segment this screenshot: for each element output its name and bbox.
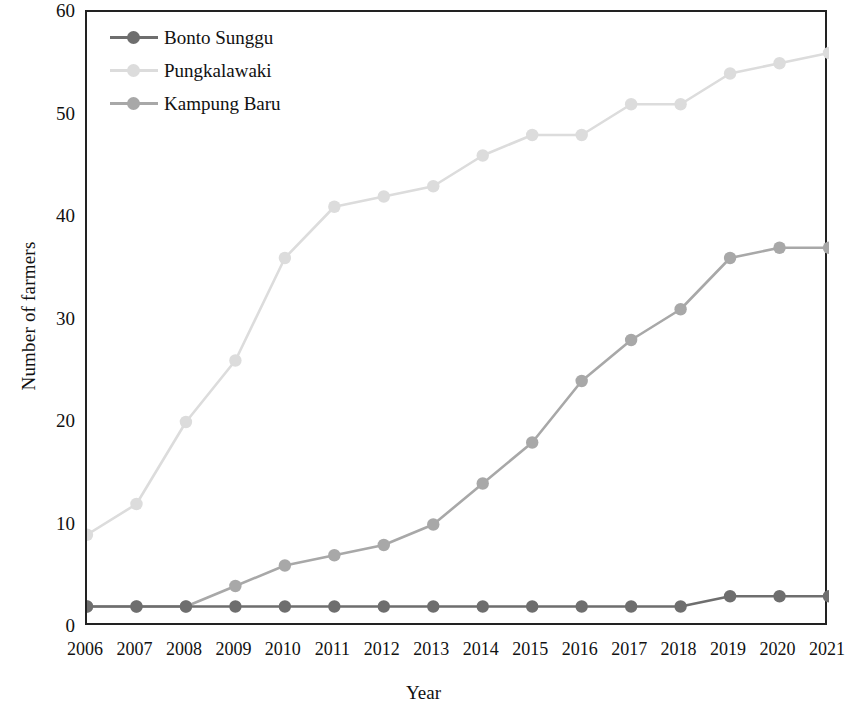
data-point-marker <box>229 354 241 366</box>
legend-marker-dot <box>127 97 140 110</box>
data-point-marker <box>87 600 93 612</box>
data-point-marker <box>279 559 291 571</box>
data-point-marker <box>773 242 785 254</box>
x-tick-label: 2018 <box>651 640 707 658</box>
y-tick-label: 60 <box>29 1 75 20</box>
data-point-marker <box>378 539 390 551</box>
data-point-marker <box>180 600 192 612</box>
legend-item[interactable]: Bonto Sunggu <box>110 26 281 48</box>
data-point-marker <box>328 201 340 213</box>
series-line <box>87 248 829 607</box>
data-point-marker <box>477 600 489 612</box>
x-tick-label: 2015 <box>502 640 558 658</box>
x-tick-label: 2010 <box>255 640 311 658</box>
data-point-marker <box>575 600 587 612</box>
data-point-marker <box>378 190 390 202</box>
series-pungkalawaki <box>87 47 829 541</box>
data-point-marker <box>229 600 241 612</box>
line-chart-figure: Number of farmers 6050403020100 Bonto Su… <box>0 0 847 712</box>
legend-swatch-icon <box>110 94 158 112</box>
data-point-marker <box>279 600 291 612</box>
data-point-marker <box>328 600 340 612</box>
data-point-marker <box>130 600 142 612</box>
x-tick-label: 2007 <box>106 640 162 658</box>
chart-legend: Bonto SungguPungkalawakiKampung Baru <box>110 26 281 114</box>
legend-marker-dot <box>127 31 140 44</box>
legend-swatch-icon <box>110 28 158 46</box>
legend-item-label: Bonto Sunggu <box>164 28 273 47</box>
data-point-marker <box>180 416 192 428</box>
data-point-marker <box>724 590 736 602</box>
data-point-marker <box>427 600 439 612</box>
data-point-marker <box>477 149 489 161</box>
x-axis-title: Year <box>0 682 847 704</box>
legend-swatch-icon <box>110 61 158 79</box>
data-point-marker <box>674 303 686 315</box>
x-tick-label: 2006 <box>57 640 113 658</box>
data-point-marker <box>526 600 538 612</box>
x-tick-label: 2019 <box>700 640 756 658</box>
data-point-marker <box>674 600 686 612</box>
data-point-marker <box>625 334 637 346</box>
data-point-marker <box>378 600 390 612</box>
y-tick-label: 0 <box>29 616 75 635</box>
data-point-marker <box>773 57 785 69</box>
x-tick-label: 2014 <box>453 640 509 658</box>
data-point-marker <box>823 47 829 59</box>
legend-item[interactable]: Pungkalawaki <box>110 59 281 81</box>
data-point-marker <box>279 252 291 264</box>
y-tick-label: 30 <box>29 309 75 328</box>
data-point-marker <box>575 375 587 387</box>
data-point-marker <box>575 129 587 141</box>
x-tick-label: 2008 <box>156 640 212 658</box>
x-tick-label: 2012 <box>354 640 410 658</box>
data-point-marker <box>328 549 340 561</box>
legend-item[interactable]: Kampung Baru <box>110 92 281 114</box>
x-tick-label: 2021 <box>799 640 847 658</box>
data-point-marker <box>427 180 439 192</box>
data-point-marker <box>823 590 829 602</box>
data-point-marker <box>724 67 736 79</box>
x-tick-label: 2017 <box>601 640 657 658</box>
data-point-marker <box>526 436 538 448</box>
data-point-marker <box>477 477 489 489</box>
data-point-marker <box>625 98 637 110</box>
data-point-marker <box>526 129 538 141</box>
legend-item-label: Pungkalawaki <box>164 61 272 80</box>
x-tick-label: 2016 <box>552 640 608 658</box>
legend-marker-dot <box>127 64 140 77</box>
data-point-marker <box>674 98 686 110</box>
series-kampung-baru <box>87 242 829 613</box>
data-point-marker <box>773 590 785 602</box>
data-point-marker <box>724 252 736 264</box>
x-tick-label: 2009 <box>205 640 261 658</box>
x-tick-label: 2020 <box>750 640 806 658</box>
x-tick-label: 2013 <box>403 640 459 658</box>
data-point-marker <box>823 242 829 254</box>
y-tick-label: 10 <box>29 514 75 533</box>
data-point-marker <box>229 580 241 592</box>
series-line <box>87 53 829 535</box>
y-tick-label: 40 <box>29 206 75 225</box>
x-tick-label: 2011 <box>304 640 360 658</box>
y-tick-label: 50 <box>29 104 75 123</box>
y-tick-label: 20 <box>29 411 75 430</box>
data-point-marker <box>130 498 142 510</box>
data-point-marker <box>427 518 439 530</box>
legend-item-label: Kampung Baru <box>164 94 281 113</box>
data-point-marker <box>625 600 637 612</box>
